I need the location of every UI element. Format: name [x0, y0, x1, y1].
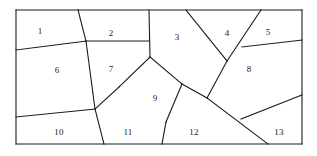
region-label-4: 4 — [225, 29, 230, 38]
edge-2-3-vertical — [149, 10, 150, 57]
edge-5-8 — [242, 40, 302, 47]
edge-8-13 — [241, 95, 302, 119]
edge-v-to-node-c — [207, 61, 227, 98]
region-label-2: 2 — [109, 29, 114, 38]
segment-group — [16, 10, 302, 144]
edge-9-11 — [95, 87, 119, 109]
region-label-9: 9 — [153, 94, 158, 103]
edge-4-left-arm — [186, 10, 227, 61]
region-label-12: 12 — [189, 128, 198, 137]
edge-9-12 — [166, 84, 182, 122]
region-label-1: 1 — [38, 27, 43, 36]
region-label-5: 5 — [266, 28, 271, 37]
edge-3-9-right — [150, 57, 182, 84]
edge-7-9-left — [119, 57, 150, 87]
region-label-11: 11 — [123, 128, 132, 137]
region-label-7: 7 — [109, 65, 114, 74]
edge-12-13-diagonal — [207, 98, 268, 144]
partition-figure: 12345678910111213 — [0, 0, 317, 156]
edge-top-to-node-a — [78, 10, 86, 41]
edge-1-6 — [16, 41, 86, 50]
edge-3-8-to-node-c — [182, 84, 207, 98]
edge-node-b-to-bottom — [95, 109, 104, 144]
edge-4-right-arm — [227, 10, 261, 61]
partition-line-drawing — [0, 0, 317, 156]
region-label-6: 6 — [55, 66, 60, 75]
region-label-10: 10 — [54, 128, 63, 137]
region-label-3: 3 — [175, 33, 180, 42]
edge-11-12-bottom — [162, 122, 166, 144]
region-label-8: 8 — [247, 65, 252, 74]
region-label-13: 13 — [274, 128, 283, 137]
edge-node-a-to-node-b — [86, 41, 95, 109]
edge-6-10 — [16, 109, 95, 117]
